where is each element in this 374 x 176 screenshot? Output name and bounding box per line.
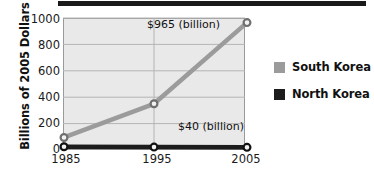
south-korea-value-callout: $965 (billion) [147, 18, 220, 31]
legend-item-north-korea: North Korea [274, 87, 374, 101]
chart-legend: South Korea North Korea [274, 60, 374, 114]
x-axis-tick-labels: 1985 1995 2005 [0, 152, 374, 172]
legend-item-south-korea: South Korea [274, 60, 374, 74]
legend-label: South Korea [292, 60, 371, 74]
north-korea-value-callout: $40 (billion) [178, 120, 244, 133]
x-tick-label: 1995 [127, 152, 187, 166]
legend-swatch-icon [274, 62, 285, 73]
legend-label: North Korea [292, 87, 370, 101]
x-tick-label: 1985 [36, 152, 96, 166]
x-tick-label: 2005 [216, 152, 276, 166]
chart-figure: Billions of 2005 Dollars 1000 800 600 40… [0, 0, 374, 176]
legend-swatch-icon [274, 89, 285, 100]
